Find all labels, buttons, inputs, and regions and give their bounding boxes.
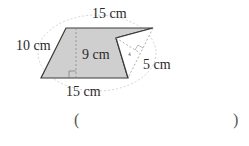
- left-side-label: 10 cm: [16, 39, 51, 53]
- geometry-figure: 15 cm 10 cm 9 cm 5 cm 15 cm: [0, 0, 249, 110]
- top-side-label: 15 cm: [92, 7, 127, 21]
- height-label: 9 cm: [82, 48, 110, 62]
- answer-close-paren: ): [233, 112, 238, 128]
- answer-blank[interactable]: [100, 112, 220, 128]
- notch-label: 5 cm: [143, 58, 171, 72]
- answer-open-paren: (: [74, 112, 79, 128]
- bottom-side-label: 15 cm: [66, 85, 101, 99]
